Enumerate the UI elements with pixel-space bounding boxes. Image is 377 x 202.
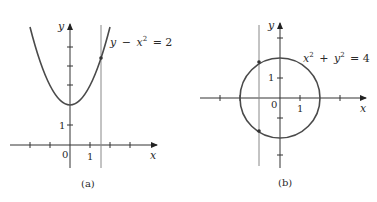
figure-canvas: y x 0 1 1 y − x2 = 2 (a) xyxy=(0,0,377,202)
figure-a: y x 0 1 1 y − x2 = 2 (a) xyxy=(10,20,172,189)
caption-a: (a) xyxy=(81,178,95,189)
origin-label: 0 xyxy=(271,99,277,110)
equation-label-b: x2 + y2 = 4 xyxy=(303,47,370,65)
intersection-point-top xyxy=(257,60,261,64)
x-axis-label: x xyxy=(150,149,157,162)
origin-label: 0 xyxy=(62,149,68,160)
intersection-point-bottom xyxy=(257,129,261,133)
y-axis-label: y xyxy=(57,20,65,33)
caption-b: (b) xyxy=(278,177,292,188)
x-tick-label-1: 1 xyxy=(297,103,303,114)
x-tick-label-1: 1 xyxy=(87,151,93,162)
intersection-point xyxy=(99,56,103,60)
y-tick-label-1: 1 xyxy=(59,120,65,131)
equation-label-a: y − x2 = 2 xyxy=(109,31,172,49)
figure-b: y x 0 1 1 x2 + y2 = 4 (b) xyxy=(200,19,370,188)
y-axis-label: y xyxy=(267,19,275,32)
x-axis-label: x xyxy=(360,102,367,115)
y-tick-label-1: 1 xyxy=(268,72,274,83)
